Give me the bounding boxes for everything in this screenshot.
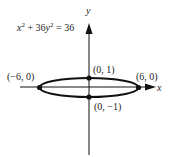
y-axis-label: y xyxy=(85,5,91,16)
equation-label: x2 + 36y2 = 36 xyxy=(16,21,74,33)
point-label-neg6-0: (−6, 0) xyxy=(7,71,34,83)
point-label-6-0: (6, 0) xyxy=(136,71,158,83)
y-axis-arrow-icon xyxy=(86,23,93,34)
point-label-0-neg1: (0, −1) xyxy=(94,101,121,113)
point-neg6-0 xyxy=(37,85,42,90)
point-6-0 xyxy=(136,85,141,90)
x-axis-label: x xyxy=(156,82,162,93)
point-0-neg1 xyxy=(86,94,91,99)
point-label-0-1: (0, 1) xyxy=(93,64,115,76)
point-0-1 xyxy=(86,75,91,80)
x-axis-arrow-icon xyxy=(145,84,156,91)
ellipse-diagram: y x x2 + 36y2 = 36 (−6, 0) (6, 0) (0, 1)… xyxy=(0,0,170,157)
